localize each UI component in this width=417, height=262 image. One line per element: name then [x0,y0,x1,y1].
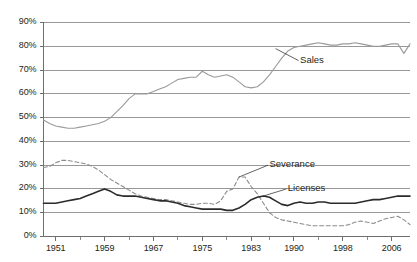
y-tick-label: 70% [0,64,37,74]
series-label-severance: Severance [270,158,315,169]
gridlines [44,23,411,213]
x-tick-label: 1967 [131,243,175,253]
axis-ticks [40,23,392,241]
annotation-leader-lines [239,49,299,196]
x-tick-label: 1951 [34,243,78,253]
y-tick-label: 40% [0,135,37,145]
x-tick-label: 1998 [321,243,365,253]
series-line-sales [44,43,411,129]
x-tick-label: 1990 [272,243,316,253]
series-label-licenses: Licenses [288,182,326,193]
y-tick-label: 30% [0,159,37,169]
chart-plot-area [0,0,417,262]
y-tick-label: 60% [0,87,37,97]
axes [44,23,411,237]
x-tick-label: 1975 [180,243,224,253]
y-tick-label: 80% [0,40,37,50]
y-tick-label: 90% [0,16,37,26]
x-tick-label: 1983 [229,243,273,253]
chart-container: 90%80%70%60%50%40%30%20%10%0% 1951195919… [0,0,417,262]
y-tick-label: 10% [0,206,37,216]
y-tick-label: 50% [0,111,37,121]
y-tick-label: 0% [0,230,37,240]
x-tick-label: 1959 [83,243,127,253]
series-line-severance [44,160,411,225]
series-label-sales: Sales [300,54,324,65]
y-tick-label: 20% [0,182,37,192]
x-tick-label: 2006 [370,243,414,253]
